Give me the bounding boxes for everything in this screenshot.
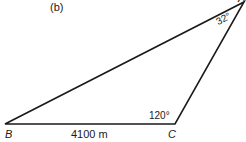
side-length-bc: 4100 m	[71, 129, 108, 140]
vertex-label-c: C	[168, 129, 176, 140]
triangle-abc	[5, 2, 244, 124]
triangle-diagram	[0, 0, 246, 142]
angle-label-c: 120°	[149, 111, 170, 121]
vertex-label-b: B	[5, 129, 12, 140]
panel-label: (b)	[50, 2, 63, 13]
vertex-label-a: A	[238, 0, 245, 4]
